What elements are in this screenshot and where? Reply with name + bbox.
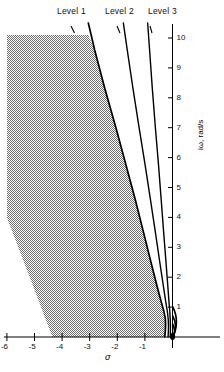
y-tick-label: 7	[177, 123, 181, 132]
x-tick-label: -4	[56, 342, 63, 351]
y-tick-label: 2	[177, 272, 181, 281]
y-tick-label: 5	[177, 183, 181, 192]
y-tick-label: 6	[177, 153, 181, 162]
unacceptable-region-shade	[7, 35, 166, 337]
level-2-label: Level 2	[105, 6, 134, 16]
y-tick-label: 10	[177, 33, 186, 42]
y-tick-label: 1	[177, 302, 181, 311]
y-tick-label: 8	[177, 93, 181, 102]
y-axis-ticks	[168, 38, 173, 307]
level-3-label: Level 3	[148, 6, 177, 16]
label-leader-lines	[71, 26, 152, 33]
y-tick-label: 9	[177, 63, 181, 72]
y-tick-label: 3	[177, 242, 181, 251]
y-tick-label: 4	[177, 212, 181, 221]
x-tick-label: -6	[1, 342, 8, 351]
x-axis-label: σ	[105, 352, 110, 362]
pole-marker	[170, 333, 175, 340]
root-locus-chart	[0, 0, 224, 372]
level-1-label: Level 1	[57, 6, 86, 16]
x-tick-label: -3	[84, 342, 91, 351]
y-axis-label: iω, rad/s	[196, 120, 205, 150]
x-tick-label: -2	[111, 342, 118, 351]
constant-radius-arcs	[173, 307, 177, 338]
x-tick-label: -1	[139, 342, 146, 351]
x-tick-label: -5	[29, 342, 36, 351]
